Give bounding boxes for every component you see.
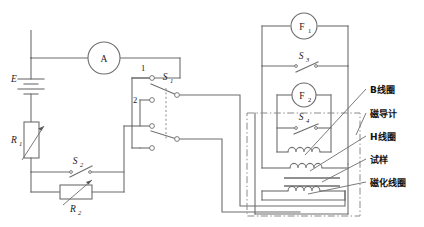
switch-s2-label: S xyxy=(73,156,78,166)
callout-magnetometer-label: 磁导计 xyxy=(370,108,397,119)
switch-s2-sub: 2 xyxy=(80,161,84,168)
callout-magnetometer: 磁导计 xyxy=(356,108,397,135)
circuit-diagram-figure: A E R 1 S 2 xyxy=(0,0,424,227)
h-coil xyxy=(290,163,322,168)
callout-h-coil: H线圈 xyxy=(310,131,396,171)
rheostat-r1-label: R xyxy=(10,135,17,145)
switch-s4[interactable]: S 4 xyxy=(277,112,331,134)
rheostat-r2-sub: 2 xyxy=(78,209,82,216)
switch-s2[interactable]: S 2 xyxy=(31,156,124,177)
magnetizing-coil xyxy=(262,186,345,200)
rheostat-r2: R 2 xyxy=(31,172,124,216)
battery-label: E xyxy=(10,74,17,84)
callout-magnetizing-coil-label: 磁化线圈 xyxy=(370,177,406,188)
ammeter: A xyxy=(88,42,120,74)
callout-h-coil-label: H线圈 xyxy=(370,131,396,142)
rheostat-r1-sub: 1 xyxy=(19,140,22,147)
terminal-1-label: 1 xyxy=(141,63,145,73)
switch-s3-label: S xyxy=(299,51,304,61)
sample-bars xyxy=(284,178,340,186)
switch-s3[interactable]: S 3 xyxy=(262,51,348,72)
switch-s1[interactable]: 1 2 S 1 xyxy=(132,63,179,150)
callout-sample-label: 试样 xyxy=(370,154,388,165)
fluxmeter-f2-label: F xyxy=(299,91,304,101)
switch-s1-sub: 1 xyxy=(170,77,173,84)
ammeter-label: A xyxy=(101,54,108,64)
fluxmeter-f2-sub: 2 xyxy=(308,96,311,103)
switch-s1-label: S xyxy=(163,72,168,82)
terminal-2-label: 2 xyxy=(133,95,137,105)
battery: E xyxy=(10,58,44,122)
rheostat-r1: R 1 xyxy=(10,122,44,172)
fluxmeter-f2-loop: F 2 xyxy=(277,83,331,152)
fluxmeter-f1-label: F xyxy=(299,22,304,32)
callout-b-coil-label: B线圈 xyxy=(370,84,395,95)
fluxmeter-f1-sub: 1 xyxy=(308,27,311,34)
switch-s4-sub: 4 xyxy=(306,117,310,124)
b-coil xyxy=(277,147,331,152)
circuit-diagram-canvas: A E R 1 S 2 xyxy=(0,0,424,227)
rheostat-r2-label: R xyxy=(69,204,76,214)
switch-s3-sub: 3 xyxy=(305,56,310,63)
